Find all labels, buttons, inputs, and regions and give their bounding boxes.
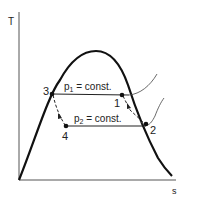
point-label-3: 3	[43, 85, 49, 97]
state-point-4	[64, 124, 69, 129]
state-point-2	[144, 122, 149, 127]
state-point-1	[120, 93, 125, 98]
state-point-3	[50, 92, 55, 97]
process-3-4-arrow	[53, 95, 65, 125]
isobar-p2-superheat	[140, 98, 164, 125]
point-label-2: 2	[150, 124, 156, 136]
point-label-1: 1	[114, 97, 120, 109]
x-axis-label: s	[172, 186, 177, 196]
isobar-p2-label: p2 = const.	[74, 113, 122, 125]
arrowhead-icon	[127, 103, 131, 109]
point-label-4: 4	[62, 130, 68, 142]
isobar-p1-line	[52, 94, 129, 95]
ts-diagram: T s 3 1 2 4 p1 = const. p2 = const.	[0, 0, 197, 199]
arrowhead-icon	[58, 113, 62, 119]
y-axis-label: T	[8, 16, 14, 27]
isobar-p1-superheat	[129, 74, 157, 95]
isobar-p1-label: p1 = const.	[64, 81, 112, 93]
